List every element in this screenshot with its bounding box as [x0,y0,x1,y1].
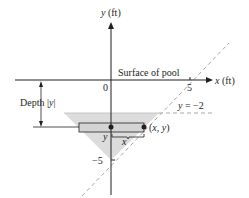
surface-label: Surface of pool [118,67,180,78]
strip-y-label: y [102,131,108,142]
y-tick-label: −5 [92,155,103,166]
depth-label: Depth |y| [20,97,55,108]
point-label: (x, y) [149,122,170,134]
pool-cross-section-diagram: y (ft) x (ft) 0 5 −5 Surface of pool Dep… [0,0,249,198]
line-y-minus-2-label: y = −2 [177,100,204,111]
y-axis-label: y (ft) [100,7,121,19]
depth-arrowhead-down-icon [39,121,43,127]
strip-x-label: x [121,136,127,147]
x-axis-label: x (ft) [214,75,235,87]
depth-arrowhead-up-icon [39,81,43,87]
x-axis-arrowhead-icon [206,77,213,83]
origin-label: 0 [103,82,108,93]
axis-point [109,125,114,130]
strip-point [142,125,147,130]
y-axis-arrowhead-icon [108,22,114,29]
x-tick-label: 5 [187,82,192,93]
